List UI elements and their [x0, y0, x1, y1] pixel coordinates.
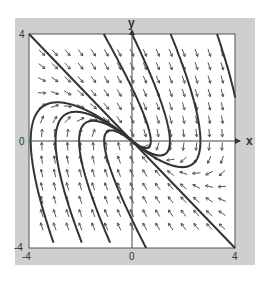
x-tick-label-zero: 0	[129, 251, 135, 262]
y-tick-label-zero: 0	[19, 136, 25, 147]
y-axis-label: y	[128, 16, 135, 30]
x-axis-label: x	[246, 134, 253, 148]
y-tick-label-min: -4	[14, 242, 23, 253]
x-tick-label-min: -4	[22, 251, 31, 262]
phase-portrait-chart: x y -4 0 4 4 0 -4	[0, 0, 271, 282]
x-axis-arrow-icon	[235, 138, 241, 144]
x-tick-label-max: 4	[232, 251, 238, 262]
y-tick-label-max: 4	[19, 29, 25, 40]
